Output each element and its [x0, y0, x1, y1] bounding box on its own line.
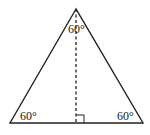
right-angle-label: 60°	[117, 109, 134, 123]
apex-angle-label: 60°	[68, 22, 85, 36]
triangle-diagram: 60° 60° 60°	[0, 0, 150, 135]
right-angle-marker	[76, 115, 84, 123]
left-angle-label: 60°	[20, 109, 37, 123]
